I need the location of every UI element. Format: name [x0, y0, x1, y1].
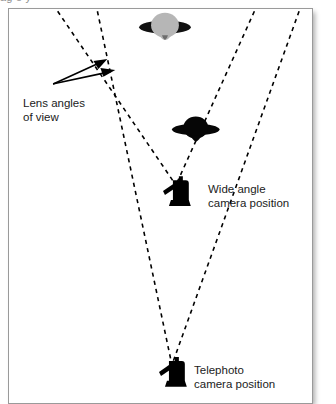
label-telephoto-camera-line2: camera position: [194, 378, 275, 392]
arrow-lower-shaft: [54, 72, 110, 84]
wide-cone-right-edge: [176, 11, 254, 185]
arrowhead-lower: [100, 68, 115, 77]
label-telephoto-camera-line1: Telephoto: [194, 364, 275, 378]
label-wide-angle-camera: Wide angle camera position: [208, 183, 289, 210]
diagram-panel: Lens angles of view Wide angle camera po…: [8, 8, 313, 404]
label-wide-angle-camera-line1: Wide angle: [208, 183, 289, 197]
label-telephoto-camera: Telephoto camera position: [194, 364, 275, 391]
cut-off-caption: ag o y: [0, 0, 130, 5]
wide-angle-camera-icon: [163, 176, 191, 206]
arrow-upper-shaft: [54, 62, 102, 84]
label-lens-angles: Lens angles of view: [23, 97, 85, 124]
label-lens-angles-line1: Lens angles: [23, 97, 85, 111]
label-lens-angles-line2: of view: [23, 111, 85, 125]
distant-tree: [139, 13, 191, 40]
label-wide-angle-camera-line2: camera position: [208, 197, 289, 211]
telephoto-camera-icon: [159, 357, 187, 387]
near-tree: [172, 117, 220, 142]
telephoto-cone-left-edge: [97, 11, 172, 365]
